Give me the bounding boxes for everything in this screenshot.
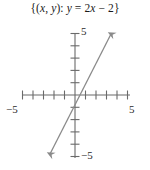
title-open-brace: {( [30,2,40,14]
title-close-paren-colon: ): [56,2,66,14]
coordinate-plane-svg [0,22,150,170]
y-axis-max-label: 5 [81,26,87,37]
x-axis-max-label: 5 [129,104,135,115]
title-close-brace: } [114,2,120,14]
y-axis-min-label: −5 [81,150,93,161]
x-axis-min-label: −5 [6,104,18,115]
function-line [50,34,111,154]
title-minus: − [95,2,108,14]
title-equals: = [72,2,85,14]
plot-area: −5 5 5 −5 [0,22,150,170]
graph-screenshot: {(x, y): y = 2x − 2} [0,0,150,170]
figure-title: {(x, y): y = 2x − 2} [0,2,150,14]
